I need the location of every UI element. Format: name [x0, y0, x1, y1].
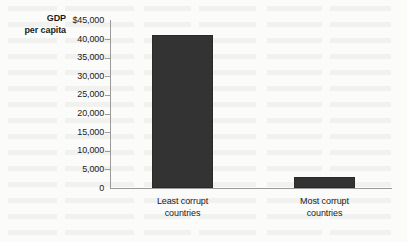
category-label-line2: countries	[118, 208, 248, 220]
y-axis-tick-label: 0	[46, 184, 104, 193]
x-axis-line	[110, 188, 392, 189]
category-label-line1: Least corrupt	[118, 196, 248, 208]
y-axis-tick-mark	[105, 132, 110, 133]
y-axis-tick-label: 15,000	[46, 128, 104, 137]
bar	[294, 177, 355, 188]
y-axis-tick-mark	[105, 76, 110, 77]
y-axis-tick-mark	[105, 114, 110, 115]
y-axis-tick-label: 10,000	[46, 146, 104, 155]
y-axis-tick-mark	[105, 58, 110, 59]
y-axis-tick-mark	[105, 95, 110, 96]
y-axis-tick-mark	[105, 39, 110, 40]
bar	[152, 35, 213, 188]
y-axis-tick-label: 30,000	[46, 72, 104, 81]
y-axis-tick-label: $45,000	[46, 16, 104, 25]
y-axis-tick-label: 40,000	[46, 35, 104, 44]
x-axis-category-label: Most corruptcountries	[260, 196, 390, 219]
category-label-line2: countries	[260, 208, 390, 220]
y-axis-tick-label: 35,000	[46, 53, 104, 62]
y-axis-tick-label: 25,000	[46, 90, 104, 99]
y-axis-tick-mark	[105, 151, 110, 152]
y-axis-tick-label: 5,000	[46, 165, 104, 174]
y-axis-line	[110, 20, 111, 188]
y-axis-tick-labels: $45,00040,00035,00030,00025,00020,00015,…	[46, 0, 104, 242]
y-axis-tick-label: 20,000	[46, 109, 104, 118]
x-axis-category-label: Least corruptcountries	[118, 196, 248, 219]
category-label-line1: Most corrupt	[260, 196, 390, 208]
y-axis-tick-mark	[105, 169, 110, 170]
bar-chart: GDP per capita $45,00040,00035,00030,000…	[0, 0, 407, 242]
